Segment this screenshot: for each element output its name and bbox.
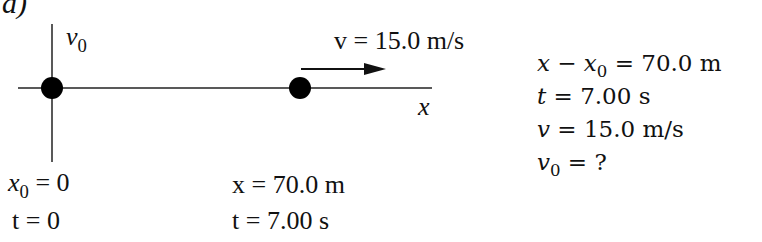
known-final-velocity: v = 15.0 m/s <box>537 114 722 147</box>
initial-velocity-label: v0 <box>66 22 87 52</box>
unknown-initial-velocity: v0 = ? <box>537 147 722 180</box>
end-position-label: x = 70.0 m <box>232 170 345 200</box>
knowns-list: x − x0 = 70.0 m t = 7.00 s v = 15.0 m/s … <box>537 48 722 180</box>
start-position-label: x0 = 0 <box>8 168 70 198</box>
known-displacement: x − x0 = 70.0 m <box>537 48 722 81</box>
start-position-dot <box>41 77 63 99</box>
velocity-arrow-head <box>364 63 386 75</box>
start-time-label: t = 0 <box>12 206 60 236</box>
final-velocity-label: v = 15.0 m/s <box>334 26 464 56</box>
known-time: t = 7.00 s <box>537 81 722 114</box>
end-time-label: t = 7.00 s <box>232 206 329 236</box>
end-position-dot <box>289 77 311 99</box>
x-axis-label: x <box>418 92 430 122</box>
